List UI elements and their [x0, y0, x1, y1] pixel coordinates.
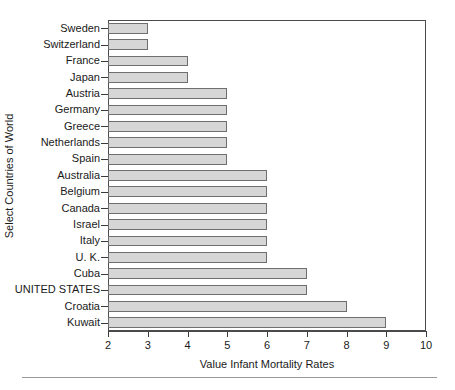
y-axis-tick-labels: SwedenSwitzerlandFranceJapanAustriaGerma… — [0, 20, 100, 331]
x-axis-tick-label: 8 — [327, 338, 367, 352]
y-axis-tick-label: Belgium — [0, 183, 100, 200]
y-axis-tick-label: Canada — [0, 200, 100, 217]
y-axis-tick — [101, 323, 108, 324]
y-axis-tick — [101, 257, 108, 258]
infant-mortality-bar-chart: Select Countries of World SwedenSwitzerl… — [0, 0, 455, 390]
y-axis-tick — [101, 192, 108, 193]
y-axis-tick-label: Spain — [0, 150, 100, 167]
x-axis-tick-label: 4 — [168, 338, 208, 352]
bar — [108, 137, 227, 148]
y-axis-tick-label: Cuba — [0, 265, 100, 282]
x-axis-line — [108, 331, 426, 332]
y-axis-tick-label: Greece — [0, 118, 100, 135]
footer-divider — [22, 377, 437, 378]
bar — [108, 88, 227, 99]
y-axis-tick — [101, 94, 108, 95]
y-axis-tick — [101, 306, 108, 307]
bar — [108, 56, 188, 67]
y-axis-tick-label: Netherlands — [0, 134, 100, 151]
bar — [108, 154, 227, 165]
y-axis-tick — [101, 159, 108, 160]
y-axis-tick — [101, 28, 108, 29]
x-axis-tick-label: 5 — [207, 338, 247, 352]
bar — [108, 317, 386, 328]
bar — [108, 105, 227, 116]
y-axis-tick-label: France — [0, 52, 100, 69]
bar — [108, 219, 267, 230]
y-axis-tick-label: Switzerland — [0, 36, 100, 53]
x-axis-tick-label: 2 — [88, 338, 128, 352]
y-axis-tick — [101, 241, 108, 242]
y-axis-tick — [101, 274, 108, 275]
y-axis-tick — [101, 61, 108, 62]
y-axis-tick — [101, 110, 108, 111]
x-axis-tick — [426, 331, 427, 337]
y-axis-tick — [101, 176, 108, 177]
bar — [108, 121, 227, 132]
y-axis-tick — [101, 225, 108, 226]
y-axis-tick-label: Italy — [0, 232, 100, 249]
bar — [108, 39, 148, 50]
bar — [108, 170, 267, 181]
y-axis-tick — [101, 143, 108, 144]
y-axis-tick — [101, 45, 108, 46]
bar-series — [108, 20, 426, 331]
y-axis-tick-label: Australia — [0, 167, 100, 184]
bar — [108, 285, 307, 296]
y-axis-tick-label: Croatia — [0, 298, 100, 315]
x-axis-tick-label: 10 — [406, 338, 446, 352]
y-axis-tick-label: Sweden — [0, 20, 100, 37]
bar — [108, 186, 267, 197]
bar — [108, 203, 267, 214]
y-axis-tick-label: Germany — [0, 101, 100, 118]
bar — [108, 72, 188, 83]
bar — [108, 301, 347, 312]
y-axis-tick — [101, 77, 108, 78]
bar — [108, 23, 148, 34]
y-axis-tick-label: Austria — [0, 85, 100, 102]
bar — [108, 268, 307, 279]
y-axis-tick-label: Israel — [0, 216, 100, 233]
y-axis-tick — [101, 290, 108, 291]
y-axis-tick — [101, 208, 108, 209]
x-axis-tick-label: 7 — [287, 338, 327, 352]
bar — [108, 236, 267, 247]
x-axis-title: Value Infant Mortality Rates — [108, 357, 426, 371]
y-axis-tick-label: UNITED STATES — [0, 281, 100, 298]
bar — [108, 252, 267, 263]
y-axis-tick-label: U. K. — [0, 249, 100, 266]
y-axis-tick — [101, 126, 108, 127]
y-axis-tick-label: Kuwait — [0, 314, 100, 331]
x-axis-tick-label: 3 — [128, 338, 168, 352]
x-axis-tick-label: 6 — [247, 338, 287, 352]
x-axis-tick-label: 9 — [366, 338, 406, 352]
y-axis-tick-label: Japan — [0, 69, 100, 86]
